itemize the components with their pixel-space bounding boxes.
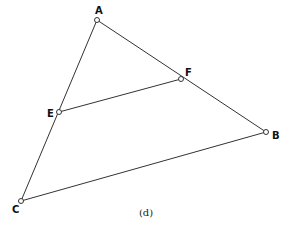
point-label-c: C <box>12 204 19 215</box>
vertices-group <box>19 18 269 204</box>
segment-ab <box>97 20 266 132</box>
point-label-e: E <box>47 108 54 119</box>
vertex-a-marker <box>95 18 100 23</box>
point-label-a: A <box>95 5 103 16</box>
vertex-b-marker <box>264 130 269 135</box>
vertex-f-marker <box>179 77 184 82</box>
segment-ef <box>59 79 181 112</box>
segment-cb <box>21 132 266 201</box>
triangle-diagram: AFEBC (d) <box>0 0 289 232</box>
point-label-b: B <box>272 130 280 141</box>
point-label-f: F <box>185 67 192 78</box>
figure-caption: (d) <box>139 207 153 218</box>
vertex-e-marker <box>57 110 62 115</box>
vertex-c-marker <box>19 199 24 204</box>
labels-group: AFEBC <box>12 5 280 215</box>
